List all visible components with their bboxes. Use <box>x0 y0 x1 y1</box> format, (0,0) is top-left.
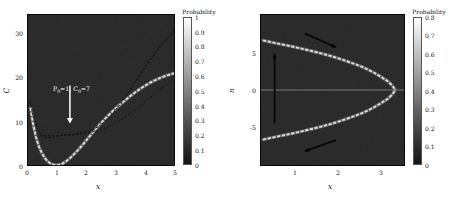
colorbar-right-gradient <box>413 17 422 165</box>
xtick-left-3: 3 <box>110 169 122 176</box>
colorbar-tick: 0.2 <box>195 132 205 139</box>
colorbar-left-title: Probability <box>172 8 226 15</box>
xtick-right-2: 2 <box>332 169 344 176</box>
colorbar-left <box>183 17 192 165</box>
panel-left: 0 10 20 30 0 1 2 3 4 5 x C P0=1, C0=7 Pr… <box>0 0 228 211</box>
plot-area-left <box>27 14 175 166</box>
colorbar-tick: 0.3 <box>425 106 435 113</box>
annotation-mid: =1, C <box>60 85 78 92</box>
colorbar-left-gradient <box>183 17 192 165</box>
xtick-left-4: 4 <box>140 169 152 176</box>
colorbar-tick: 0.2 <box>425 125 435 132</box>
ytick-right-neg5: -5 <box>236 124 256 131</box>
ytick-left-10: 10 <box>4 119 23 126</box>
annotation-left: P0=1, C0=7 <box>53 85 90 94</box>
colorbar-tick: 0.1 <box>425 143 435 150</box>
colorbar-tick: 0.6 <box>425 51 435 58</box>
ylabel-left: C <box>2 88 11 94</box>
colorbar-tick: 0.1 <box>195 147 205 154</box>
xtick-left-0: 0 <box>21 169 33 176</box>
xtick-right-3: 3 <box>375 169 387 176</box>
xtick-left-5: 5 <box>169 169 181 176</box>
colorbar-tick: 0.5 <box>195 88 205 95</box>
colorbar-tick: 0.8 <box>425 14 435 21</box>
ytick-left-20: 20 <box>4 74 23 81</box>
colorbar-tick: 0.4 <box>195 103 205 110</box>
ylabel-right: n <box>227 88 236 93</box>
xlabel-left: x <box>96 182 100 191</box>
panel-right: 5 0 -5 1 2 3 x n Probability 0.80.70.60.… <box>228 0 455 211</box>
colorbar-tick: 0.7 <box>425 32 435 39</box>
colorbar-tick: 0.4 <box>425 88 435 95</box>
colorbar-tick: 0.6 <box>195 73 205 80</box>
colorbar-tick: 0 <box>195 162 199 169</box>
xtick-left-1: 1 <box>51 169 63 176</box>
plot-area-right <box>260 14 405 166</box>
annotation-suffix: =7 <box>81 85 90 92</box>
figure-container: 0 10 20 30 0 1 2 3 4 5 x C P0=1, C0=7 Pr… <box>0 0 455 211</box>
colorbar-tick: 1 <box>195 14 199 21</box>
colorbar-tick: 0.5 <box>425 69 435 76</box>
xtick-left-2: 2 <box>80 169 92 176</box>
plot-canvas-left <box>27 14 175 166</box>
colorbar-tick: 0.3 <box>195 117 205 124</box>
xtick-right-1: 1 <box>289 169 301 176</box>
plot-canvas-right <box>260 14 405 166</box>
colorbar-right <box>413 17 422 165</box>
ytick-left-30: 30 <box>4 30 23 37</box>
colorbar-tick: 0.7 <box>195 58 205 65</box>
colorbar-tick: 0.9 <box>195 29 205 36</box>
colorbar-tick: 0.8 <box>195 43 205 50</box>
ytick-right-0: 0 <box>236 87 256 94</box>
xlabel-right: x <box>328 182 332 191</box>
colorbar-tick: 0 <box>425 162 429 169</box>
ytick-right-5: 5 <box>236 50 256 57</box>
